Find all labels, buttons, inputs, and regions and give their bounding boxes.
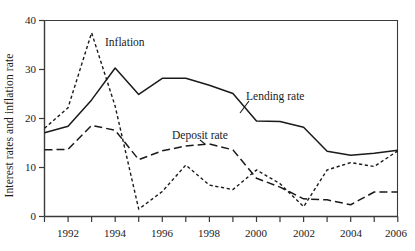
series-label-inflation: Inflation: [105, 36, 145, 48]
y-tick-label-20: 20: [16, 113, 36, 124]
x-tick-label-2000: 2000: [245, 228, 267, 239]
y-tick-label-40: 40: [16, 15, 36, 26]
chart-plot-area: [0, 0, 415, 251]
y-axis-ticks: [39, 21, 45, 217]
x-tick-label-1996: 1996: [151, 228, 173, 239]
series-line-inflation: [45, 33, 398, 209]
series-lines: [45, 33, 398, 209]
x-tick-label-2004: 2004: [340, 228, 362, 239]
series-line-lending-rate: [45, 68, 398, 155]
x-tick-label-1994: 1994: [104, 228, 126, 239]
y-tick-label-10: 10: [16, 162, 36, 173]
y-tick-label-0: 0: [16, 211, 36, 222]
chart-figure: Interest rates and inflation rate: [0, 0, 415, 251]
x-tick-label-2002: 2002: [293, 228, 315, 239]
y-tick-label-30: 30: [16, 64, 36, 75]
series-label-lending-rate: Lending rate: [246, 90, 304, 102]
x-axis-ticks: [45, 217, 398, 223]
series-label-deposit-rate: Deposit rate: [172, 129, 228, 141]
x-tick-label-1998: 1998: [198, 228, 220, 239]
x-tick-label-1992: 1992: [57, 228, 79, 239]
x-tick-label-2006: 2006: [385, 228, 407, 239]
